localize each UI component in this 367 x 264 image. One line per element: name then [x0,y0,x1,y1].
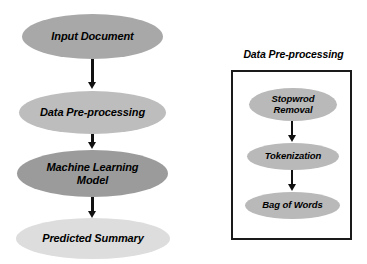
node-data-preprocessing-label: Data Pre-processing [40,106,145,118]
node-machine-learning-model[interactable]: Machine Learning Model [17,150,168,197]
arrow-shaft [91,59,94,84]
arrow-head-icon [288,184,296,191]
arrow-head-icon [88,211,96,218]
node-stopword-removal-label: Stopwrod Removal [272,94,315,115]
node-data-preprocessing[interactable]: Data Pre-processing [19,91,166,134]
node-label-line-2: Model [47,174,139,186]
diagram-canvas: Input Document Data Pre-processing Machi… [0,0,367,264]
node-tokenization[interactable]: Tokenization [247,143,339,170]
node-input-document-label: Input Document [51,30,133,42]
node-input-document[interactable]: Input Document [22,14,163,59]
node-stopword-removal[interactable]: Stopwrod Removal [249,88,337,121]
node-tokenization-label: Tokenization [265,151,322,162]
arrow-head-icon [288,135,296,142]
detail-panel-title: Data Pre-processing [231,48,356,60]
arrow-shaft [91,197,94,212]
node-predicted-summary[interactable]: Predicted Summary [16,218,170,259]
node-bag-of-words-label: Bag of Words [262,200,322,211]
node-label-line-1: Machine Learning [47,161,139,173]
arrow-head-icon [88,82,96,89]
node-label-line-2: Removal [272,105,315,116]
node-machine-learning-model-label: Machine Learning Model [47,161,139,186]
node-label-line-1: Stopwrod [272,94,315,105]
node-predicted-summary-label: Predicted Summary [42,232,144,244]
node-bag-of-words[interactable]: Bag of Words [245,192,340,219]
arrow-head-icon [88,142,96,149]
